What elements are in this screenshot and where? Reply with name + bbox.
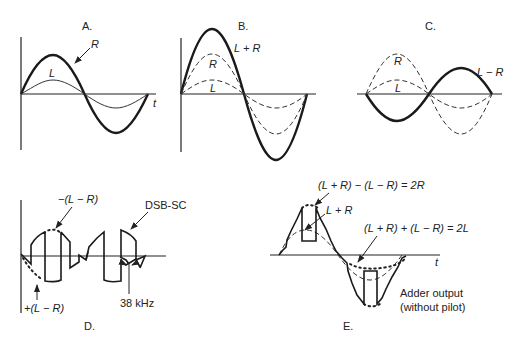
panel-b-l-label: L	[210, 82, 216, 94]
panel-d-neg-label: −(L − R)	[58, 193, 98, 205]
panel-a-r-arrow	[75, 48, 90, 63]
panel-a: A. t R L	[21, 20, 157, 150]
panel-e-adder-label-2: (without pilot)	[400, 301, 465, 313]
panel-e: t (L + R) − (L − R) = 2R L + R (L + R) +…	[270, 179, 469, 332]
panel-d-dsb-arrow	[131, 212, 148, 229]
panel-e-sum-label: L + R	[326, 204, 352, 216]
panel-b-r-label: R	[209, 58, 217, 70]
panel-d-pos-envelope	[23, 258, 43, 280]
panel-e-adder-label-1: Adder output	[400, 287, 463, 299]
stereo-multiplex-diagram: A. t R L B. L + R R L C. R	[0, 0, 514, 344]
panel-e-2r-label: (L + R) − (L − R) = 2R	[318, 179, 425, 191]
panel-b-label: B.	[238, 20, 248, 32]
panel-d: −(L − R) DSB-SC 38 kHz +(L − R) D.	[21, 193, 187, 332]
panel-d-pos-label: +(L − R)	[24, 302, 64, 314]
panel-c-label: C.	[425, 20, 436, 32]
panel-c-r-label: R	[394, 55, 402, 67]
panel-e-label: E.	[343, 320, 353, 332]
panel-d-freq-label: 38 kHz	[120, 297, 154, 309]
panel-d-dsb-label: DSB-SC	[145, 199, 187, 211]
panel-a-l-label: L	[49, 67, 55, 79]
panel-d-neg-arrow	[56, 207, 72, 228]
panel-c: C. R L L − R	[357, 20, 503, 134]
panel-e-t-label: t	[435, 256, 439, 268]
panel-c-l-label: L	[395, 82, 401, 94]
panel-a-t-label: t	[153, 97, 157, 109]
panel-d-label: D.	[84, 320, 95, 332]
panel-e-2l-arrow	[358, 236, 377, 262]
panel-e-2l-label: (L + R) + (L − R) = 2L	[364, 222, 469, 234]
panel-a-label: A.	[82, 20, 92, 32]
panel-e-2l-envelope	[350, 257, 405, 269]
panel-b: B. L + R R L	[181, 20, 316, 160]
panel-d-neg-envelope	[44, 230, 61, 233]
panel-b-sum-label: L + R	[234, 42, 260, 54]
panel-c-diff-label: L − R	[477, 66, 503, 78]
panel-a-r-label: R	[91, 38, 99, 50]
panel-e-2r-envelope	[302, 205, 318, 208]
